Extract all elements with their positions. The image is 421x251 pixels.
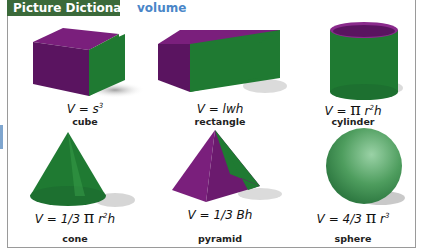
sphere-formula: V = 4/3 π r3 — [283, 208, 421, 227]
rectangle-entry: V = lwh rectangle — [150, 20, 290, 140]
cube-formula: V = s3 — [15, 102, 155, 116]
pyramid-label: pyramid — [150, 233, 290, 244]
pyramid-entry: V = 1/3 Bh pyramid — [150, 128, 290, 248]
page-edge-accent — [0, 125, 3, 149]
sphere-label: sphere — [283, 233, 421, 244]
pyramid-icon — [150, 128, 290, 210]
cylinder-label: cylinder — [283, 116, 421, 127]
rectangular-prism-icon — [150, 20, 290, 102]
cone-formula: V = 1/3 π r2h — [5, 208, 145, 227]
cylinder-entry: V = π r2h cylinder — [283, 20, 421, 140]
rectangle-label: rectangle — [150, 116, 290, 127]
rectangle-formula: V = lwh — [150, 102, 290, 116]
sphere-entry: V = 4/3 π r3 sphere — [283, 128, 421, 248]
cube-label: cube — [15, 116, 155, 127]
picture-dictionary-tab: Picture Dictionary — [7, 0, 120, 16]
cone-entry: V = 1/3 π r2h cone — [15, 128, 155, 248]
cylinder-icon — [283, 20, 421, 102]
cube-icon — [15, 20, 155, 102]
cone-label: cone — [5, 233, 145, 244]
pyramid-formula: V = 1/3 Bh — [150, 208, 290, 222]
cube-entry: V = s3 cube — [15, 20, 155, 140]
topic-title: volume — [137, 0, 186, 16]
sphere-icon — [283, 128, 421, 210]
cone-icon — [15, 128, 155, 210]
